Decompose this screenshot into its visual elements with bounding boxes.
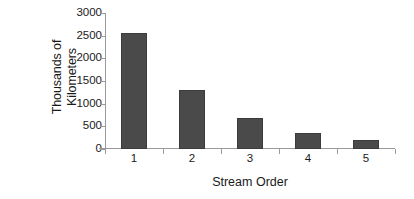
bar [237, 118, 263, 149]
y-tick-label: 0 [56, 143, 102, 155]
y-tick-mark [100, 36, 105, 37]
y-tick-label: 1000 [56, 98, 102, 110]
bar-chart-figure: Thousands of Kilometers 0500100015002000… [0, 0, 414, 199]
y-tick-mark [100, 58, 105, 59]
bars-layer [105, 13, 395, 149]
x-tick-mark [395, 149, 396, 154]
y-tick-mark [100, 81, 105, 82]
y-tick-label: 3000 [56, 7, 102, 19]
y-tick-label: 2000 [56, 53, 102, 65]
y-tick-mark [100, 104, 105, 105]
bar [121, 33, 147, 149]
y-tick-mark [100, 13, 105, 14]
bar [353, 140, 379, 149]
y-tick-label: 500 [56, 121, 102, 133]
x-tick-label: 5 [346, 152, 386, 165]
bar [295, 133, 321, 149]
x-axis-title: Stream Order [105, 175, 395, 189]
bar [179, 90, 205, 149]
y-tick-label: 1500 [56, 75, 102, 87]
y-tick-label: 2500 [56, 30, 102, 42]
x-axis-tick-labels: 12345 [105, 152, 395, 168]
x-tick-label: 4 [288, 152, 328, 165]
x-tick-label: 1 [114, 152, 154, 165]
x-tick-label: 3 [230, 152, 270, 165]
x-tick-label: 2 [172, 152, 212, 165]
y-axis-tick-labels: 050010001500200025003000 [56, 0, 102, 199]
y-tick-mark [100, 126, 105, 127]
plot-area [105, 13, 395, 149]
